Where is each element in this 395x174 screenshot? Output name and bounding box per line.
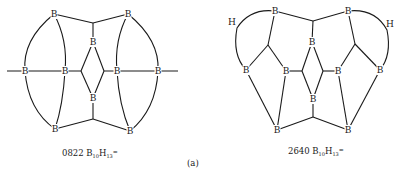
bond <box>277 117 313 130</box>
boron-atom: B <box>62 66 69 76</box>
structure-2640: BBBBBBBBBB H H <box>228 6 394 135</box>
boron-atom: B <box>345 6 352 16</box>
bond <box>277 71 286 130</box>
boron-atom: B <box>127 126 134 136</box>
bond <box>275 11 313 21</box>
bond <box>338 71 348 130</box>
boron-atom: B <box>114 66 121 76</box>
boron-atom: B <box>345 125 352 135</box>
bond <box>268 11 275 45</box>
boron-atom: B <box>22 66 29 76</box>
boron-atom: B <box>125 9 132 19</box>
bond <box>313 117 348 130</box>
bond <box>348 70 380 130</box>
panel-label: (a) <box>187 158 199 168</box>
caption-code: 2640 <box>288 146 310 156</box>
bond <box>54 14 93 23</box>
hydrogen-label: H <box>386 19 394 29</box>
boron-atom: B <box>243 65 250 75</box>
caption-charge: = <box>339 146 344 153</box>
caption-0822: 0822 B10H13= <box>62 148 118 159</box>
bond <box>128 14 158 131</box>
bond <box>55 119 93 129</box>
caption-code: 0822 <box>62 148 84 158</box>
structure-0822: BBBBBBBBBB <box>7 9 178 136</box>
boron-atom: B <box>310 94 317 104</box>
boron-atom: B <box>52 124 59 134</box>
caption-charge: = <box>113 148 118 155</box>
boron-atom: B <box>155 66 162 76</box>
boron-atom: B <box>90 37 97 47</box>
bond <box>93 119 130 131</box>
caption-2640: 2640 B10H13= <box>288 146 344 157</box>
hydrogen-label: H <box>228 17 236 27</box>
boron-atom: B <box>335 66 342 76</box>
boron-atom: B <box>309 37 316 47</box>
boron-atom: B <box>90 93 97 103</box>
bond <box>93 14 128 23</box>
boron-atom: B <box>283 66 290 76</box>
boron-atom: B <box>377 65 384 75</box>
bond <box>246 70 277 130</box>
bond <box>313 11 348 21</box>
boron-atom: B <box>272 6 279 16</box>
boron-atom: B <box>51 9 58 19</box>
boron-atom: B <box>274 125 281 135</box>
